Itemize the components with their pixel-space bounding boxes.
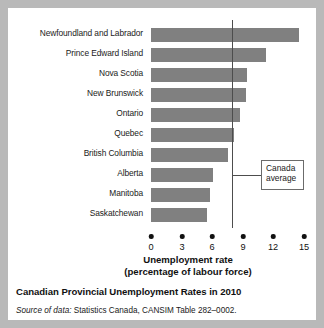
source-rest: Statistics Canada, CANSIM Table 282–0002… (72, 306, 237, 315)
category-label: Saskatchewan (13, 206, 143, 220)
chart-row: Prince Edward Island (8, 48, 316, 62)
canada-average-label-line2: average (266, 173, 296, 183)
bar (151, 168, 213, 182)
x-axis-tick-label: 15 (299, 242, 309, 252)
x-axis-title: Unemployment rate (percentage of labour … (8, 254, 316, 277)
canada-average-leader-line (232, 175, 261, 176)
canada-average-callout: Canada average (261, 160, 304, 190)
chart-row: Saskatchewan (8, 208, 316, 222)
chart-row: Newfoundland and Labrador (8, 28, 316, 42)
x-axis-tick-label: 0 (148, 242, 153, 252)
figure-source-note: Source of data: Statistics Canada, CANSI… (16, 306, 310, 315)
bar (151, 128, 234, 142)
x-axis-tick-label: 3 (179, 242, 184, 252)
x-axis-title-line2: (percentage of labour force) (34, 266, 324, 278)
figure-caption: Canadian Provincial Unemployment Rates i… (16, 286, 310, 297)
bar (151, 28, 299, 42)
category-label: New Brunswick (13, 86, 143, 100)
canada-average-line (232, 20, 233, 228)
canada-average-label-line1: Canada (266, 163, 295, 173)
category-label: Quebec (13, 126, 143, 140)
category-label: Alberta (13, 166, 143, 180)
x-axis-tick-dot (210, 234, 215, 239)
x-axis-tick-dot (302, 234, 307, 239)
bar (151, 188, 210, 202)
category-label: British Columbia (13, 146, 143, 160)
bar-chart-plot-area: Newfoundland and Labrador Prince Edward … (8, 8, 316, 238)
category-label: Ontario (13, 106, 143, 120)
x-axis-tick-dot (180, 234, 185, 239)
bar (151, 148, 228, 162)
chart-row: New Brunswick (8, 88, 316, 102)
chart-row: Quebec (8, 128, 316, 142)
category-label: Newfoundland and Labrador (13, 26, 143, 40)
bar (151, 208, 207, 222)
x-axis-tick-dot (271, 234, 276, 239)
bar (151, 48, 266, 62)
x-axis-tick-label: 12 (268, 242, 278, 252)
x-axis-tick-label: 6 (209, 242, 214, 252)
x-axis-title-line1: Unemployment rate (34, 254, 324, 266)
chart-row: Nova Scotia (8, 68, 316, 82)
chart-row: Ontario (8, 108, 316, 122)
category-label: Manitoba (13, 186, 143, 200)
bar (151, 108, 240, 122)
x-axis-tick-label: 9 (240, 242, 245, 252)
source-prefix: Source of data: (16, 306, 72, 315)
x-axis-tick-dot (149, 234, 154, 239)
category-label: Prince Edward Island (13, 46, 143, 60)
x-axis-tick-dot (241, 234, 246, 239)
category-label: Nova Scotia (13, 66, 143, 80)
chart-row: Manitoba (8, 188, 316, 202)
figure-panel: Newfoundland and Labrador Prince Edward … (8, 8, 316, 320)
